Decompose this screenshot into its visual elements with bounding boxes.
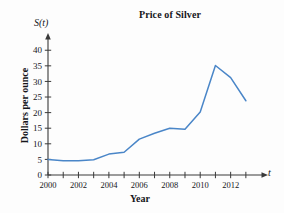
x-tick-label: 2008 [161,180,178,190]
x-tick-label: 2012 [222,180,239,190]
chart-figure: Price of Silver S(t) t Dollars per ounce… [0,0,284,213]
y-axis-arrowhead [45,33,51,40]
x-tick-label: 2006 [131,180,148,190]
y-tick-label: 35 [33,61,43,71]
y-tick-label: 40 [33,45,43,55]
x-tick-label: 2002 [70,180,87,190]
y-axis: 0510152025303540 [33,33,51,180]
y-tick-label: 15 [33,123,43,133]
x-tick-label: 2004 [100,180,118,190]
x-tick-label: 2010 [192,180,209,190]
y-tick-label: 20 [33,108,43,118]
silver-price-line [48,66,246,161]
y-tick-label: 10 [33,139,43,149]
y-tick-label: 25 [33,92,43,102]
x-axis-arrowhead [262,172,269,178]
y-tick-label: 0 [38,170,43,180]
y-tick-label: 5 [38,155,43,165]
plot-area: 0510152025303540 20002002200420062008201… [0,0,284,213]
x-tick-label: 2000 [40,180,57,190]
x-axis: 2000200220042006200820102012 [40,172,269,190]
y-tick-label: 30 [33,77,43,87]
